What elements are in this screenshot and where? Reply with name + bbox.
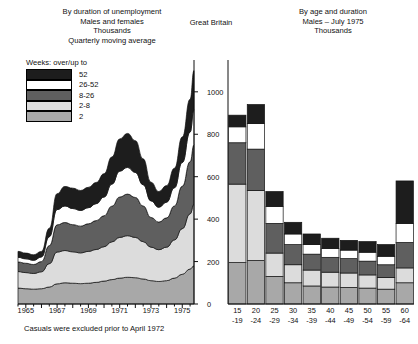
bar-segment	[377, 256, 394, 264]
bar-segment	[303, 234, 320, 245]
age-group-label: 40-44	[325, 306, 336, 326]
footnote: Casuals were excluded prior to April 197…	[24, 324, 164, 333]
age-group-label: 30-34	[288, 306, 299, 326]
bar-segment	[359, 288, 376, 304]
bar-segment	[229, 184, 246, 263]
right-bar-chart	[228, 60, 414, 304]
bar-segment	[303, 286, 320, 304]
left-area-chart	[18, 60, 194, 304]
bar-segment	[396, 242, 413, 267]
bar-segment	[377, 265, 394, 278]
bar-segment	[359, 252, 376, 261]
bar-segment	[229, 127, 246, 143]
bar-segment	[266, 276, 283, 304]
bar-segment	[340, 250, 357, 258]
left-title-line1: By duration of unemployment	[24, 7, 200, 17]
x-tick-label: 1965	[18, 306, 34, 315]
x-tick-label: 1975	[174, 306, 190, 315]
bar-segment	[266, 192, 283, 207]
bar-segment	[340, 273, 357, 287]
age-group-label: 35-39	[306, 306, 317, 326]
bar-segment	[303, 254, 320, 270]
bar-segment	[377, 245, 394, 257]
bar-segment	[359, 275, 376, 288]
age-group-label: 50-54	[362, 306, 373, 326]
age-group-label: 55-59	[381, 306, 392, 326]
y-tick-label: 200	[207, 257, 219, 266]
age-group-label: 25-29	[269, 306, 280, 326]
bar-segment	[322, 272, 339, 287]
bar-segment	[322, 257, 339, 272]
bar-segment	[340, 240, 357, 250]
bar-segment	[340, 259, 357, 273]
right-title-line2: Males – July 1975	[258, 17, 408, 27]
region-title: Great Britain	[168, 18, 254, 28]
bar-segment	[247, 105, 264, 124]
bar-segment	[284, 222, 301, 234]
bar-segment	[322, 248, 339, 257]
y-axis-labels: 02004006008001000	[199, 60, 229, 310]
bar-segment	[229, 143, 246, 184]
y-tick-label: 1000	[207, 87, 223, 96]
bar-segment	[303, 270, 320, 286]
right-x-axis-labels: 15-1920-2425-2930-3435-3940-4445-4950-54…	[228, 306, 418, 332]
right-title-line3: Thousands	[258, 26, 408, 36]
bar-segment	[322, 287, 339, 304]
y-tick-label: 600	[207, 172, 219, 181]
bar-segment	[359, 242, 376, 253]
bar-segment	[396, 181, 413, 223]
bar-segment	[303, 245, 320, 255]
bar-segment	[284, 265, 301, 283]
y-tick-label: 400	[207, 215, 219, 224]
bar-segment	[247, 190, 264, 260]
age-group-label: 45-49	[344, 306, 355, 326]
x-tick-label: 1967	[49, 306, 65, 315]
bar-segment	[396, 283, 413, 304]
left-title-line3: Thousands	[24, 26, 200, 36]
bar-segment	[396, 223, 413, 242]
x-tick-label: 1973	[143, 306, 159, 315]
age-group-label: 15-19	[232, 306, 243, 326]
bar-segment	[266, 223, 283, 253]
x-tick-label: 1971	[111, 306, 127, 315]
right-title-line1: By age and duration	[258, 7, 408, 17]
bar-segment	[266, 206, 283, 223]
bar-segment	[229, 115, 246, 127]
bar-segment	[247, 149, 264, 190]
x-tick-label: 1969	[80, 306, 96, 315]
bar-segment	[247, 124, 264, 149]
age-group-label: 60-64	[399, 306, 410, 326]
bar-segment	[377, 277, 394, 289]
left-x-axis-labels: 196519671969197119731975	[10, 306, 210, 318]
bar-segment	[266, 253, 283, 276]
bar-segment	[377, 289, 394, 304]
bar-segment	[284, 245, 301, 265]
left-title-line4: Quarterly moving average	[24, 36, 200, 46]
bar-segment	[284, 234, 301, 245]
bar-segment	[247, 261, 264, 305]
bar-segment	[396, 268, 413, 283]
bar-segment	[229, 263, 246, 304]
age-group-label: 20-24	[251, 306, 262, 326]
bar-segment	[284, 283, 301, 304]
chart-page: By duration of unemployment Males and fe…	[0, 0, 418, 344]
y-tick-label: 800	[207, 130, 219, 139]
right-chart-title: By age and duration Males – July 1975 Th…	[258, 7, 408, 36]
bar-segment	[340, 287, 357, 304]
bar-segment	[359, 261, 376, 275]
bar-segment	[322, 238, 339, 248]
